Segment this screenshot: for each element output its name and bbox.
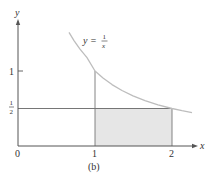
y-axis-label: y bbox=[14, 7, 20, 18]
y-tick-label-half-den: 2 bbox=[10, 108, 14, 116]
y-tick-label-half-num: 1 bbox=[10, 99, 14, 107]
y-axis-arrow-icon bbox=[16, 19, 20, 25]
shaded-region bbox=[95, 109, 172, 147]
x-axis-label: x bbox=[199, 140, 205, 151]
diagram-canvas: y x 0 1 2 1 1 2 y = 1 x (b) bbox=[0, 0, 214, 179]
curve-label-num: 1 bbox=[103, 33, 107, 41]
x-tick-label-2: 2 bbox=[169, 148, 174, 159]
origin-label: 0 bbox=[15, 148, 20, 159]
figure-caption: (b) bbox=[88, 161, 100, 173]
curve-label-den: x bbox=[101, 42, 106, 50]
curve-label-lhs: y = bbox=[82, 35, 97, 46]
x-axis-arrow-icon bbox=[192, 144, 198, 148]
x-tick-label-1: 1 bbox=[92, 148, 97, 159]
y-tick-label-1: 1 bbox=[9, 66, 14, 77]
